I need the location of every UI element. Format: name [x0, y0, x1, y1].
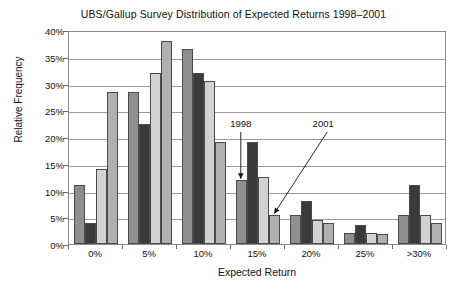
bar [204, 81, 215, 244]
y-tick-label: 35% [30, 52, 64, 63]
y-tick-label: 40% [30, 26, 64, 37]
chart-title: UBS/Gallup Survey Distribution of Expect… [0, 8, 467, 20]
y-tick-label: 20% [30, 133, 64, 144]
bar [323, 223, 334, 244]
bar [85, 223, 96, 244]
x-tick-label: 0% [88, 248, 102, 259]
bar [377, 234, 388, 244]
bar-group [128, 32, 171, 244]
bar [215, 142, 226, 244]
x-tick-label: 15% [247, 248, 266, 259]
bar [355, 225, 366, 244]
x-tick-label: 5% [142, 248, 156, 259]
bar [128, 92, 139, 244]
bar [269, 215, 280, 244]
bar [150, 73, 161, 244]
x-axis-tick-labels: 0%5%10%15%20%25%>30% [68, 248, 446, 264]
bar [258, 177, 269, 244]
bar [236, 180, 247, 244]
x-tick-label: >30% [407, 248, 432, 259]
bar-group [182, 32, 225, 244]
y-tick-label: 10% [30, 186, 64, 197]
bar-group [398, 32, 441, 244]
x-tick-label: 20% [301, 248, 320, 259]
bar [182, 49, 193, 244]
y-tick-label: 15% [30, 159, 64, 170]
bar-group [74, 32, 117, 244]
bar [366, 233, 377, 244]
bar [74, 185, 85, 244]
bar-group [236, 32, 279, 244]
y-axis-tick-labels: 0%5%10%15%20%25%30%35%40% [24, 31, 64, 245]
chart-figure: UBS/Gallup Survey Distribution of Expect… [0, 0, 467, 304]
y-axis-title: Relative Frequency [13, 20, 24, 180]
y-tick-label: 25% [30, 106, 64, 117]
bar [409, 185, 420, 244]
bar [193, 73, 204, 244]
bar [290, 215, 301, 244]
bar-group [344, 32, 387, 244]
bar-group [290, 32, 333, 244]
bar [96, 169, 107, 244]
plot-area [68, 31, 446, 245]
annotation-label: 2001 [313, 118, 334, 129]
bar [161, 41, 172, 244]
x-tick-mark [446, 245, 447, 249]
y-tick-label: 30% [30, 79, 64, 90]
bar [398, 215, 409, 244]
y-tick-label: 5% [30, 213, 64, 224]
bar [247, 142, 258, 244]
y-tick-label: 0% [30, 240, 64, 251]
annotation-label: 1998 [230, 118, 251, 129]
x-axis-title: Expected Return [68, 266, 446, 278]
bar [312, 220, 323, 244]
bar [139, 124, 150, 244]
bar [431, 223, 442, 244]
bar [420, 215, 431, 244]
x-tick-label: 10% [193, 248, 212, 259]
bar [301, 201, 312, 244]
bar [107, 92, 118, 244]
bar [344, 233, 355, 244]
x-tick-label: 25% [355, 248, 374, 259]
